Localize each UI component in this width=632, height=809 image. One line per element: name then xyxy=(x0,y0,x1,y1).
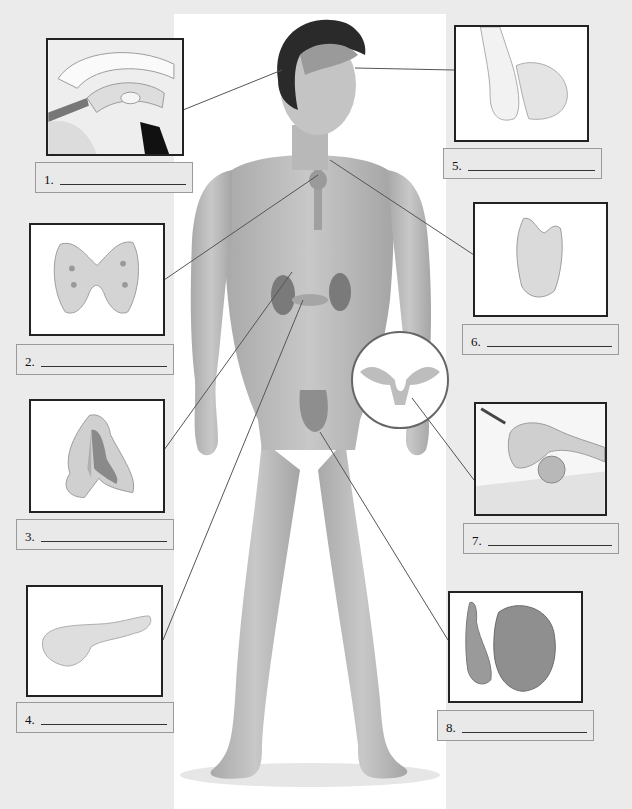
thymus-illustration xyxy=(475,204,606,315)
label-box-4[interactable]: 4. xyxy=(16,702,174,733)
label-box-8[interactable]: 8. xyxy=(437,710,594,741)
inset-circle xyxy=(352,332,448,428)
image-box-1 xyxy=(46,38,184,156)
answer-blank[interactable] xyxy=(487,345,612,347)
label-box-1[interactable]: 1. xyxy=(35,162,193,193)
testis-illustration xyxy=(450,593,581,701)
answer-blank[interactable] xyxy=(41,723,167,725)
hypothalamus-illustration xyxy=(48,40,182,154)
image-box-8 xyxy=(448,591,583,703)
label-box-5[interactable]: 5. xyxy=(443,148,602,179)
answer-blank[interactable] xyxy=(468,169,595,171)
label-number: 2. xyxy=(25,355,35,368)
pancreas-illustration xyxy=(28,587,161,695)
pituitary-illustration xyxy=(456,27,587,140)
answer-blank[interactable] xyxy=(488,544,612,546)
endocrine-diagram: 1. 2. 3. 4. xyxy=(0,0,632,809)
label-number: 8. xyxy=(446,721,456,734)
answer-blank[interactable] xyxy=(41,540,167,542)
answer-blank[interactable] xyxy=(462,731,587,733)
ovary-illustration xyxy=(476,404,605,514)
answer-blank[interactable] xyxy=(60,183,186,185)
image-box-5 xyxy=(454,25,589,142)
label-number: 1. xyxy=(44,173,54,186)
answer-blank[interactable] xyxy=(41,365,167,367)
label-number: 7. xyxy=(472,534,482,547)
label-number: 4. xyxy=(25,713,35,726)
adrenal-illustration xyxy=(31,401,163,511)
image-box-2 xyxy=(29,223,165,336)
label-number: 6. xyxy=(471,335,481,348)
label-number: 3. xyxy=(25,530,35,543)
label-box-2[interactable]: 2. xyxy=(16,344,174,375)
image-box-6 xyxy=(473,202,608,317)
label-box-7[interactable]: 7. xyxy=(463,523,619,554)
image-box-7 xyxy=(474,402,607,516)
label-number: 5. xyxy=(452,159,462,172)
image-box-3 xyxy=(29,399,165,513)
image-box-4 xyxy=(26,585,163,697)
thyroid-illustration xyxy=(31,225,163,334)
label-box-3[interactable]: 3. xyxy=(16,519,174,550)
label-box-6[interactable]: 6. xyxy=(462,324,619,355)
